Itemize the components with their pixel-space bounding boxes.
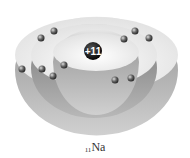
element-symbol: Na <box>91 140 105 154</box>
atom-diagram: +11 <box>0 0 190 158</box>
electron <box>39 66 46 73</box>
element-label: 11Na <box>0 140 190 155</box>
electron <box>19 66 26 73</box>
electron <box>132 28 139 35</box>
electron <box>61 62 68 69</box>
electron <box>128 75 135 82</box>
electron <box>146 35 153 42</box>
electron <box>112 77 119 84</box>
electron <box>121 36 128 43</box>
electron <box>38 35 45 42</box>
electron <box>50 73 57 80</box>
nucleus-charge: +11 <box>85 46 102 57</box>
nucleus: +11 <box>84 42 102 60</box>
electron <box>51 28 58 35</box>
